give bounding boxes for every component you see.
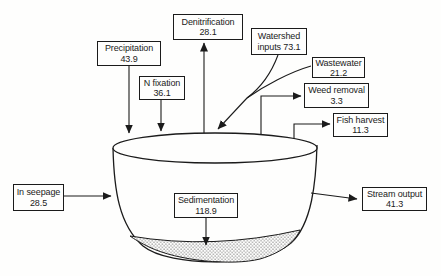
node-weed-removal: Weed removal 3.3 [304,83,369,108]
node-label: Wastewater [315,58,361,68]
node-value: 21.2 [330,68,347,78]
diagram-canvas: Denitrification 28.1 Precipitation 43.9 … [0,0,441,276]
node-label: Denitrification [181,17,234,28]
arrow-fish-harvest [294,124,330,139]
node-label: In seepage [17,187,61,198]
node-label: Precipitation [105,43,153,54]
arrow-weed-removal [261,96,301,134]
curve-wastewater [247,66,311,98]
node-label: Stream output [367,189,422,200]
node-label: Weed removal [308,85,365,96]
node-value: 3.3 [330,96,342,107]
node-wastewater: Wastewater 21.2 [312,57,365,78]
node-label: Fish harvest [337,115,385,126]
node-label: N fixation [144,78,181,89]
lake-drawing [0,0,441,276]
lake-surface-rim [113,133,317,163]
node-in-seepage: In seepage 28.5 [13,184,64,211]
arrow-stream-output [311,193,357,199]
node-stream-output: Stream output 41.3 [362,187,427,211]
node-value: 28.1 [199,27,216,38]
node-value: 43.9 [120,54,137,65]
curve-watershed-inputs [247,55,278,98]
node-label: Sedimentation [178,195,234,206]
node-label: Watershed [258,31,300,42]
node-value: 118.9 [195,206,216,217]
node-sedimentation: Sedimentation 118.9 [174,193,238,218]
node-n-fixation: N fixation 36.1 [139,76,185,100]
node-denitrification: Denitrification 28.1 [173,14,243,40]
node-watershed-inputs: Watershed inputs 73.1 [251,28,307,55]
node-value: 28.5 [30,198,47,209]
node-value: 41.3 [386,199,403,210]
node-precipitation: Precipitation 43.9 [97,41,161,66]
arrow-watershed-wastewater-merged [218,98,247,129]
node-fish-harvest: Fish harvest 11.3 [333,113,388,137]
node-value: 36.1 [153,88,170,99]
node-value: inputs 73.1 [258,42,301,53]
node-value: 11.3 [352,125,368,136]
